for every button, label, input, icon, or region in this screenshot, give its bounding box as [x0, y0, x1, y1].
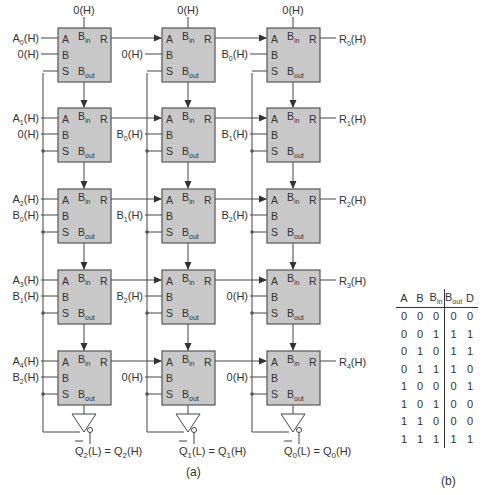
pin-r: R — [309, 275, 317, 287]
pin-b: B — [166, 210, 173, 222]
truth-table-cell: 1 — [396, 378, 412, 396]
subtractor-block-r3-c2: ABSRBinBout — [267, 270, 320, 324]
a-input-label: A4(H) — [12, 355, 39, 369]
a-input-label: A0(H) — [12, 32, 39, 46]
pin-s: S — [62, 145, 69, 157]
truth-table: ABBinBoutD 00000001110101101110100011010… — [396, 289, 478, 448]
r-output-label: R0(H) — [339, 33, 366, 47]
b-input-label: B1(H) — [116, 209, 143, 223]
truth-table-cell: 1 — [462, 343, 478, 361]
b-input-label: 0(H) — [227, 371, 248, 383]
truth-table-cell: 1 — [428, 360, 445, 378]
subtractor-block-r4-c1: ABSRBinBout — [162, 351, 215, 405]
subtractor-block-r2-c2: ABSRBinBout — [267, 189, 320, 243]
b-input-label: B2(H) — [116, 290, 143, 304]
truth-table-cell: 0 — [445, 395, 463, 413]
truth-table-cell: 0 — [396, 343, 412, 361]
pin-b: B — [62, 291, 69, 303]
truth-table-cell: 1 — [412, 430, 428, 448]
caption-a: (a) — [186, 465, 201, 479]
pin-r: R — [100, 194, 108, 206]
pin-a: A — [62, 275, 69, 287]
pin-s: S — [166, 65, 173, 77]
truth-table-cell: 1 — [462, 325, 478, 343]
pin-a: A — [62, 356, 69, 368]
subtractor-block-r3-c0: ABSRBinBout — [58, 270, 111, 324]
quotient-output-label: Q1(L) = Q1(H) — [179, 445, 246, 460]
pin-r: R — [100, 356, 108, 368]
quotient-output-label: Q0(L) = Q0(H) — [284, 445, 351, 460]
truth-table-cell: 0 — [412, 307, 428, 325]
b-input-label: 0(H) — [227, 290, 248, 302]
b-input-label: B0(H) — [116, 128, 143, 142]
truth-table-cell: 0 — [445, 378, 463, 396]
pin-s: S — [271, 388, 278, 400]
top-input-label: 0(H) — [73, 4, 94, 16]
truth-table-header-cell: Bin — [428, 289, 445, 307]
subtractor-block-r4-c0: ABSRBinBout — [58, 351, 111, 405]
truth-table-cell: 1 — [445, 360, 463, 378]
a-input-label: A3(H) — [12, 274, 39, 288]
pin-s: S — [62, 388, 69, 400]
subtractor-block-r1-c1: ABSRBinBout — [162, 108, 215, 162]
caption-b: (b) — [441, 474, 456, 488]
b-input-label: B0(H) — [221, 48, 248, 62]
pin-b: B — [166, 49, 173, 61]
truth-table-cell: 0 — [428, 378, 445, 396]
pin-s: S — [62, 307, 69, 319]
truth-table-cell: 1 — [396, 395, 412, 413]
r-output-label: R4(H) — [339, 356, 366, 370]
pin-b: B — [271, 49, 278, 61]
truth-table-cell: 0 — [412, 395, 428, 413]
pin-b: B — [62, 49, 69, 61]
pin-a: A — [166, 113, 173, 125]
b-input-label: B2(H) — [221, 209, 248, 223]
r-output-label: R2(H) — [339, 194, 366, 208]
truth-table-cell: 0 — [396, 360, 412, 378]
truth-table-cell: 1 — [462, 430, 478, 448]
truth-table-header-cell: A — [396, 289, 412, 307]
truth-table-cell: 0 — [428, 343, 445, 361]
pin-r: R — [204, 275, 212, 287]
truth-table-cell: 1 — [412, 360, 428, 378]
subtractor-block-r1-c2: ABSRBinBout — [267, 108, 320, 162]
truth-table-cell: 0 — [428, 307, 445, 325]
truth-table-row: 10100 — [396, 395, 478, 413]
truth-table-cell: 0 — [445, 413, 463, 431]
pin-a: A — [166, 33, 173, 45]
truth-table-cell: 1 — [428, 395, 445, 413]
pin-a: A — [166, 194, 173, 206]
b-input-label: B1(H) — [12, 290, 39, 304]
truth-table-cell: 0 — [396, 325, 412, 343]
truth-table-cell: 1 — [396, 413, 412, 431]
truth-table-header-cell: D — [462, 289, 478, 307]
truth-table-header-cell: Bout — [445, 289, 463, 307]
quotient-output-label: Q2(L) = Q2(H) — [75, 445, 142, 460]
truth-table-body: 0000000111010110111010001101001100011111 — [396, 307, 478, 448]
subtractor-block-r4-c2: ABSRBinBout — [267, 351, 320, 405]
b-input-label: 0(H) — [122, 371, 143, 383]
truth-table-row: 01011 — [396, 343, 478, 361]
subtractor-array-diagram: ABSRBinBoutABSRBinBoutABSRBinBoutABSRBin… — [0, 0, 390, 495]
pin-s: S — [62, 226, 69, 238]
pin-s: S — [271, 145, 278, 157]
pin-s: S — [271, 307, 278, 319]
truth-table-cell: 1 — [445, 325, 463, 343]
b-input-label: 0(H) — [18, 128, 39, 140]
pin-a: A — [62, 33, 69, 45]
subtractor-block-r0-c1: ABSRBinBout — [162, 28, 215, 82]
b-input-label: 0(H) — [122, 48, 143, 60]
truth-table-cell: 0 — [462, 395, 478, 413]
pin-a: A — [271, 194, 278, 206]
truth-table-row: 11111 — [396, 430, 478, 448]
pin-s: S — [271, 226, 278, 238]
pin-s: S — [166, 145, 173, 157]
truth-table-cell: 1 — [428, 430, 445, 448]
truth-table-cell: 1 — [412, 413, 428, 431]
truth-table-cell: 1 — [445, 343, 463, 361]
subtractor-block-r3-c1: ABSRBinBout — [162, 270, 215, 324]
pin-a: A — [271, 275, 278, 287]
b-input-label: B1(H) — [221, 128, 248, 142]
a-input-label: A1(H) — [12, 112, 39, 126]
subtractor-block-r2-c0: ABSRBinBout — [58, 189, 111, 243]
